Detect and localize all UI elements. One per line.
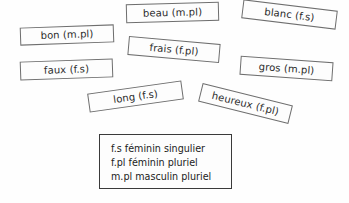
word-card-label: bon (m.pl) [40, 29, 93, 41]
word-card-label: beau (m.pl) [143, 7, 202, 19]
word-card-heureux[interactable]: heureux (f.pl) [198, 83, 293, 124]
word-card-bon[interactable]: bon (m.pl) [20, 24, 115, 45]
word-card-frais[interactable]: frais (f.pl) [127, 36, 220, 63]
worksheet-canvas: bon (m.pl)beau (m.pl)blanc (f.s)frais (f… [0, 0, 349, 203]
word-card-label: long (f.s) [113, 88, 159, 104]
word-card-label: frais (f.pl) [149, 42, 199, 56]
word-card-label: gros (m.pl) [258, 62, 314, 76]
legend-line: f.s féminin singulier [111, 142, 231, 156]
word-card-long[interactable]: long (f.s) [87, 80, 184, 112]
legend-line: m.pl masculin pluriel [111, 170, 231, 184]
word-card-blanc[interactable]: blanc (f.s) [241, 0, 338, 30]
word-card-beau[interactable]: beau (m.pl) [126, 2, 219, 23]
word-card-label: faux (f.s) [44, 64, 89, 76]
word-card-faux[interactable]: faux (f.s) [20, 58, 114, 80]
word-card-label: heureux (f.pl) [211, 90, 280, 116]
word-card-label: blanc (f.s) [264, 6, 315, 22]
legend-box: f.s féminin singulier f.pl féminin pluri… [99, 134, 232, 189]
word-card-gros[interactable]: gros (m.pl) [239, 56, 333, 81]
legend-line: f.pl féminin pluriel [111, 156, 231, 170]
